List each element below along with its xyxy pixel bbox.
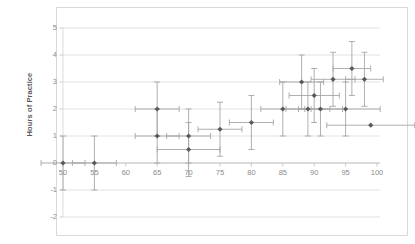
y-tick-label: 2 — [35, 104, 57, 113]
y-tick-label: 1 — [35, 131, 57, 140]
x-tick-label: 50 — [50, 168, 76, 177]
x-tick-label: 65 — [144, 168, 170, 177]
y-tick-label: -2 — [35, 212, 57, 221]
chart-figure: Hours of Practice -2-1012345 50556065707… — [0, 0, 415, 244]
x-tick-label: 80 — [238, 168, 264, 177]
y-tick-label: -1 — [35, 185, 57, 194]
y-tick-label: 3 — [35, 77, 57, 86]
y-axis-label: Hours of Practice — [25, 50, 34, 160]
y-tick-label: 4 — [35, 50, 57, 59]
x-tick-label: 75 — [207, 168, 233, 177]
y-tick-label: 0 — [35, 158, 57, 167]
x-tick-label: 90 — [301, 168, 327, 177]
data-points — [60, 66, 373, 166]
y-tick-label: 5 — [35, 23, 57, 32]
scatter-plot-svg — [0, 0, 415, 244]
x-tick-label: 95 — [333, 168, 359, 177]
gridlines — [63, 28, 380, 217]
x-tick-label: 60 — [113, 168, 139, 177]
x-tick-label: 70 — [176, 168, 202, 177]
x-tick-label: 85 — [270, 168, 296, 177]
x-tick-label: 55 — [81, 168, 107, 177]
x-tick-label: 100 — [364, 168, 390, 177]
chart-plot-area — [0, 0, 415, 244]
